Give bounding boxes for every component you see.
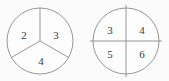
right-circle-group: 3 4 5 6 — [90, 5, 162, 77]
circles-diagram-svg: 2 3 4 3 4 5 6 — [0, 0, 169, 81]
left-sector-label-4: 4 — [38, 55, 44, 67]
right-quadrant-label-3: 3 — [107, 24, 113, 36]
left-sector-label-3: 3 — [53, 29, 59, 41]
left-circle-group: 2 3 4 — [7, 8, 73, 74]
left-sector-label-2: 2 — [21, 29, 27, 41]
right-quadrant-label-6: 6 — [139, 48, 145, 60]
right-quadrant-label-4: 4 — [139, 24, 145, 36]
diagram-canvas: 2 3 4 3 4 5 6 — [0, 0, 169, 81]
right-quadrant-label-5: 5 — [107, 48, 113, 60]
